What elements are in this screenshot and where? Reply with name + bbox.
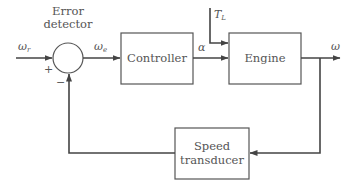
error-detector-label-line1: Error <box>52 4 84 18</box>
minus-sign: − <box>56 76 65 89</box>
plus-sign: + <box>44 63 53 76</box>
error-detector-label-line2: detector <box>43 17 93 31</box>
error-signal-label: ωe <box>94 40 107 54</box>
controller-label: Controller <box>127 51 187 65</box>
control-signal-label: α <box>198 41 206 54</box>
error-detector-summing-junction <box>53 43 83 73</box>
output-signal-label: ω <box>331 40 340 53</box>
feedback-return-wire <box>69 74 175 153</box>
engine-label: Engine <box>244 51 285 65</box>
speed-transducer-label-line2: transducer <box>180 153 244 167</box>
load-torque-label: TL <box>214 8 226 22</box>
speed-transducer-label-line1: Speed <box>194 139 231 153</box>
block-diagram: ωr Error detector + − ωe Controller α TL… <box>0 0 352 190</box>
reference-signal-label: ωr <box>18 40 31 54</box>
